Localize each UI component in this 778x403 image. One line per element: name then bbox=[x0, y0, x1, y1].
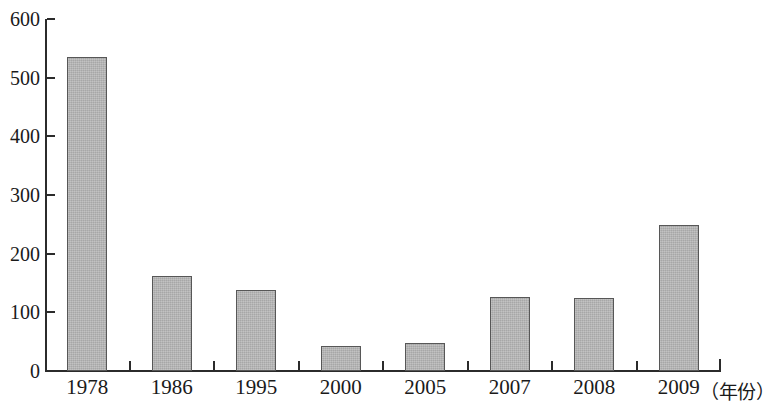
x-axis-unit-caption: （年份） bbox=[700, 377, 774, 403]
bar bbox=[236, 290, 276, 371]
y-tick-mark bbox=[47, 135, 55, 137]
y-tick-label: 400 bbox=[0, 126, 40, 146]
y-tick-label: 300 bbox=[0, 185, 40, 205]
bar bbox=[659, 225, 699, 371]
bar bbox=[574, 298, 614, 371]
x-tick-mark bbox=[129, 361, 131, 370]
bar bbox=[490, 297, 530, 371]
y-tick-label: 0 bbox=[0, 361, 40, 381]
x-axis-line bbox=[45, 370, 721, 372]
bar bbox=[152, 276, 192, 371]
x-tick-label: 1986 bbox=[127, 377, 217, 398]
y-tick-mark bbox=[47, 77, 55, 79]
x-tick-label: 2008 bbox=[549, 377, 639, 398]
bar-chart: 0100200300400500600 19781986199520002005… bbox=[0, 0, 778, 403]
y-tick-mark bbox=[47, 311, 55, 313]
bar bbox=[405, 343, 445, 371]
x-tick-mark bbox=[382, 361, 384, 370]
bar bbox=[321, 346, 361, 371]
x-tick-mark bbox=[467, 361, 469, 370]
y-tick-label: 600 bbox=[0, 9, 40, 29]
x-tick-label: 1995 bbox=[211, 377, 301, 398]
x-tick-label: 2000 bbox=[296, 377, 386, 398]
x-tick-label: 1978 bbox=[42, 377, 132, 398]
y-tick-label: 500 bbox=[0, 68, 40, 88]
y-tick-mark bbox=[47, 370, 55, 372]
x-tick-label: 2007 bbox=[465, 377, 555, 398]
y-tick-mark bbox=[47, 253, 55, 255]
x-tick-mark bbox=[636, 361, 638, 370]
bar bbox=[67, 57, 107, 371]
y-tick-label: 100 bbox=[0, 302, 40, 322]
y-tick-label: 200 bbox=[0, 244, 40, 264]
x-tick-mark bbox=[213, 361, 215, 370]
x-tick-mark bbox=[298, 361, 300, 370]
x-axis-end-tick bbox=[719, 359, 721, 370]
x-tick-mark bbox=[551, 361, 553, 370]
y-tick-mark bbox=[47, 194, 55, 196]
y-tick-mark bbox=[47, 18, 55, 20]
x-tick-label: 2005 bbox=[380, 377, 470, 398]
